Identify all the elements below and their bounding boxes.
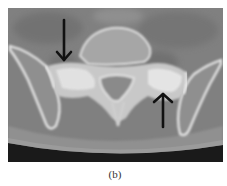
ct-scan-image <box>8 8 223 162</box>
figure-panel: (b) <box>0 0 227 186</box>
figure-caption: (b) <box>0 168 227 180</box>
